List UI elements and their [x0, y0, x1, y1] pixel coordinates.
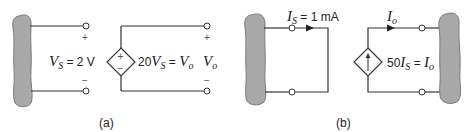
circuit-diagram: + − VS = 2 V + − 20VS = Vo + − Vo (a)	[0, 0, 471, 132]
output-label-a: Vo	[203, 53, 217, 71]
terminal-b-out-bottom	[419, 89, 425, 95]
minus-sign-a-out: −	[204, 75, 210, 86]
plus-sign-a-in: +	[82, 32, 88, 43]
terminal-a-in-top	[83, 23, 89, 29]
network-blob-a	[13, 15, 32, 107]
panel-a: + − VS = 2 V + − 20VS = Vo + − Vo (a)	[13, 15, 217, 130]
terminal-a-in-bottom	[83, 88, 89, 94]
source-plus-sign: +	[118, 51, 124, 62]
input-label-b: IS = 1 mA	[286, 8, 339, 26]
short-circuit-wire	[295, 28, 328, 92]
caption-b: (b)	[336, 116, 351, 130]
terminal-b-in-bottom	[289, 89, 295, 95]
input-label-a: VS = 2 V	[49, 53, 95, 71]
terminal-a-out-top	[204, 23, 210, 29]
source-label-b: 50IS = Io	[387, 54, 434, 72]
wire-b-src-bottom	[368, 76, 419, 92]
terminal-a-out-bottom	[204, 88, 210, 94]
terminal-b-out-top	[419, 25, 425, 31]
minus-sign-a-in: −	[82, 75, 88, 86]
network-blob-b-left	[245, 14, 266, 105]
panel-b: IS = 1 mA Io 50IS = Io (b)	[245, 8, 461, 130]
plus-sign-a-out: +	[204, 32, 210, 43]
source-label-a: 20VS = Vo	[138, 53, 193, 71]
caption-a: (a)	[99, 116, 114, 130]
output-label-b: Io	[386, 8, 397, 26]
network-blob-b-right	[439, 13, 461, 103]
wire-b-src-top	[368, 28, 419, 48]
current-arrow-icon-is	[306, 25, 314, 32]
source-minus-sign: −	[118, 63, 124, 74]
